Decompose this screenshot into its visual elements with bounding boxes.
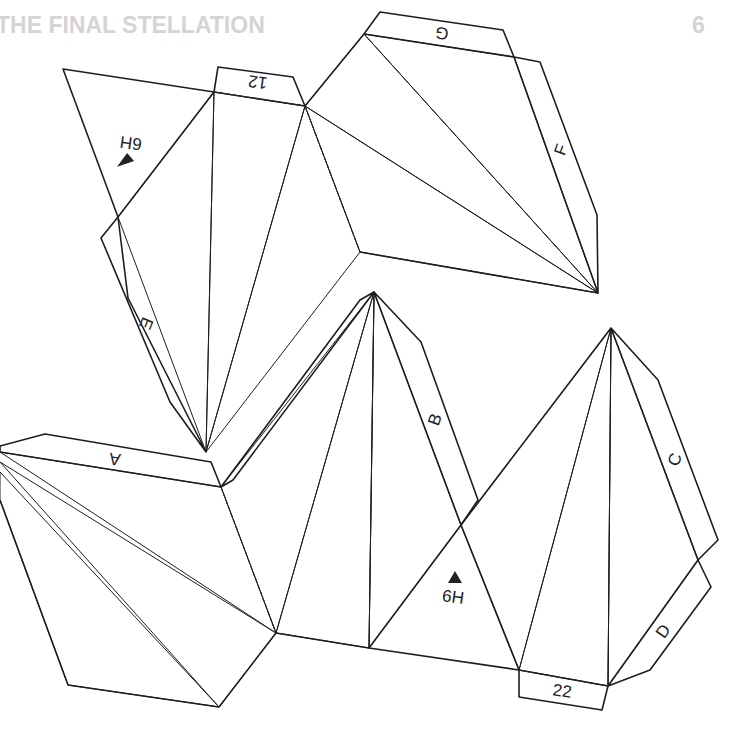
marker-label-bottom: 6H xyxy=(441,586,465,608)
glue-tab-e xyxy=(101,217,206,452)
lower-left-piece xyxy=(0,292,374,707)
tab-labels: 12 G F E A B C D 22 xyxy=(107,23,686,702)
label-a: A xyxy=(107,449,122,469)
upper-left-piece xyxy=(63,67,360,452)
label-12: 12 xyxy=(247,71,268,92)
glue-tab-b xyxy=(374,292,478,525)
attach-marker-bottom: 6H xyxy=(441,571,465,608)
label-b: B xyxy=(424,411,446,428)
face-mid-dark xyxy=(305,106,598,293)
face-light-right xyxy=(206,106,360,452)
label-d: D xyxy=(652,621,675,642)
lower-middle-piece xyxy=(276,292,519,670)
label-f: F xyxy=(550,142,571,158)
face-mid-b xyxy=(276,292,374,648)
face-darkest-center xyxy=(206,92,305,452)
label-22: 22 xyxy=(551,680,572,701)
face-darkest-c xyxy=(461,328,611,670)
triangle-marker-icon xyxy=(117,152,135,169)
label-c: C xyxy=(664,451,686,469)
label-g: G xyxy=(434,23,450,44)
lower-right-piece xyxy=(461,328,718,710)
attach-marker-top: 6H xyxy=(117,132,143,169)
face-mid xyxy=(305,34,598,293)
stellation-net-diagram: 12 G F E A B C D 22 6H 6H xyxy=(0,0,731,755)
glue-tab-c xyxy=(611,328,718,560)
marker-label-top: 6H xyxy=(119,132,143,154)
face-light-connector xyxy=(221,292,374,633)
triangle-marker-icon xyxy=(448,571,462,583)
face-mid-light-c xyxy=(519,328,611,686)
face-mid-a xyxy=(0,462,276,707)
label-e: E xyxy=(135,315,157,333)
